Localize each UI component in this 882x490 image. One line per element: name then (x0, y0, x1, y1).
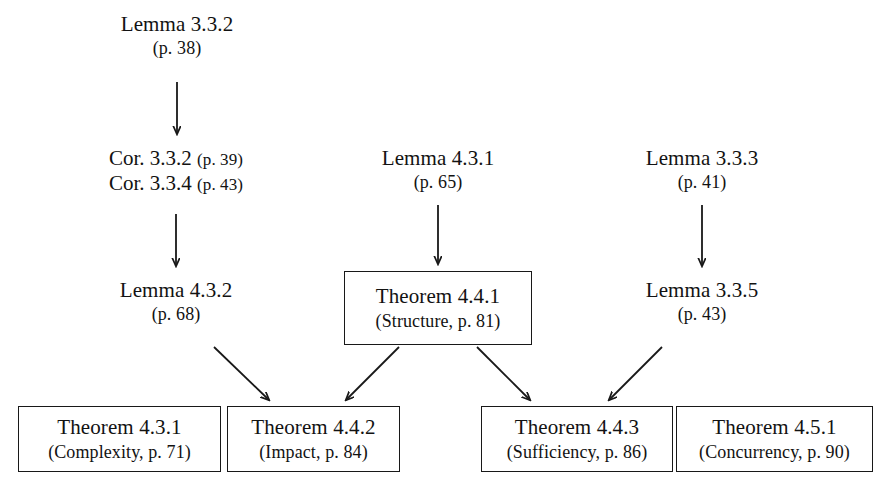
node-title: Theorem 4.4.1 (376, 284, 500, 309)
node-corollary-stack[interactable]: Cor. 3.3.2 (p. 39) Cor. 3.3.4 (p. 43) (56, 146, 296, 196)
dependency-diagram: Lemma 3.3.2 (p. 38) Cor. 3.3.2 (p. 39) C… (0, 0, 882, 490)
edge-theorem441-to-theorem443 (477, 347, 530, 400)
node-page-ref: (Complexity, p. 71) (48, 442, 191, 463)
node-lemma-3-3-3[interactable]: Lemma 3.3.3 (p. 41) (602, 146, 802, 193)
node-theorem-4-4-2[interactable]: Theorem 4.4.2 (Impact, p. 84) (227, 406, 400, 472)
node-page-ref: (p. 68) (76, 304, 276, 325)
node-page-ref: (Sufficiency, p. 86) (507, 442, 647, 463)
node-title: Lemma 3.3.5 (602, 278, 802, 303)
node-theorem-4-4-3[interactable]: Theorem 4.4.3 (Sufficiency, p. 86) (481, 406, 673, 472)
node-title: Theorem 4.4.3 (515, 415, 639, 440)
node-title: Lemma 3.3.2 (77, 12, 277, 37)
node-lemma-3-3-5[interactable]: Lemma 3.3.5 (p. 43) (602, 278, 802, 325)
corollary-2-label: Cor. 3.3.4 (109, 171, 192, 195)
node-title: Theorem 4.5.1 (712, 415, 836, 440)
node-page-ref: (p. 38) (77, 38, 277, 59)
node-page-ref: (Impact, p. 84) (259, 442, 367, 463)
node-title: Theorem 4.3.1 (57, 415, 181, 440)
node-title: Lemma 3.3.3 (602, 146, 802, 171)
corollary-row-1: Cor. 3.3.2 (p. 39) (56, 146, 296, 171)
node-title: Theorem 4.4.2 (251, 415, 375, 440)
edge-lemma335-to-theorem443 (609, 347, 662, 400)
edge-theorem441-to-theorem442 (346, 347, 399, 400)
corollary-1-label: Cor. 3.3.2 (109, 146, 192, 170)
node-page-ref: (Concurrency, p. 90) (699, 442, 850, 463)
node-page-ref: (p. 65) (338, 172, 538, 193)
node-page-ref: (p. 43) (602, 304, 802, 325)
node-title: Lemma 4.3.1 (338, 146, 538, 171)
corollary-1-page: (p. 39) (197, 150, 243, 169)
corollary-2-page: (p. 43) (197, 175, 243, 194)
node-lemma-4-3-1[interactable]: Lemma 4.3.1 (p. 65) (338, 146, 538, 193)
node-page-ref: (p. 41) (602, 172, 802, 193)
node-theorem-4-5-1[interactable]: Theorem 4.5.1 (Concurrency, p. 90) (676, 406, 873, 472)
node-page-ref: (Structure, p. 81) (376, 311, 501, 332)
node-theorem-4-3-1[interactable]: Theorem 4.3.1 (Complexity, p. 71) (18, 406, 221, 472)
edge-lemma432-to-theorem442 (214, 347, 269, 400)
node-lemma-3-3-2[interactable]: Lemma 3.3.2 (p. 38) (77, 12, 277, 59)
node-title: Lemma 4.3.2 (76, 278, 276, 303)
node-theorem-4-4-1[interactable]: Theorem 4.4.1 (Structure, p. 81) (344, 271, 532, 345)
corollary-row-2: Cor. 3.3.4 (p. 43) (56, 171, 296, 196)
node-lemma-4-3-2[interactable]: Lemma 4.3.2 (p. 68) (76, 278, 276, 325)
